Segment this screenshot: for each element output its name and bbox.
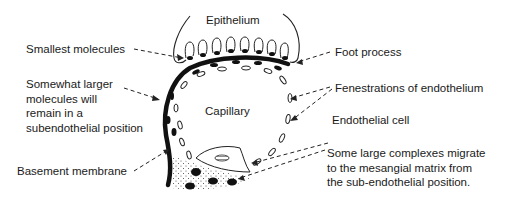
endothelial-cell-label: Endothelial cell bbox=[332, 113, 409, 128]
somewhat-larger-molecules-label: Somewhat larger molecules will remain in… bbox=[26, 77, 143, 135]
large-complexes-label: Some large complexes migrate to the mesa… bbox=[327, 146, 486, 190]
smallest-molecules-label: Smallest molecules bbox=[26, 42, 125, 57]
endothelial-nucleus bbox=[215, 155, 229, 161]
capillary-label: Capillary bbox=[205, 104, 250, 119]
basement-membrane-label: Basement membrane bbox=[17, 164, 127, 179]
epithelium-label: Epithelium bbox=[206, 13, 260, 28]
fenestrations-label: Fenestrations of endothelium bbox=[335, 81, 483, 96]
foot-process-label: Foot process bbox=[335, 45, 401, 60]
